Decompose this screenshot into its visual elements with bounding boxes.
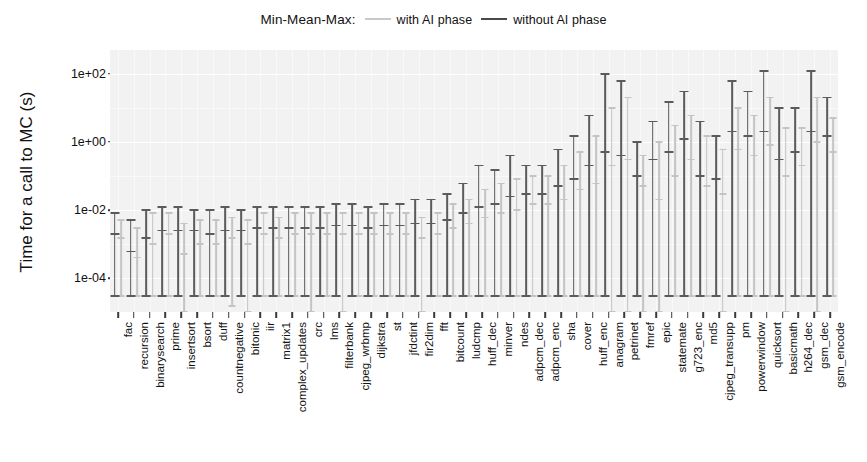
error-bar-cap-min bbox=[458, 295, 467, 297]
error-bar-mean bbox=[142, 237, 151, 239]
x-tick-mark bbox=[829, 312, 831, 318]
x-tick-label: fft bbox=[438, 322, 450, 331]
error-bar-mean bbox=[110, 233, 119, 235]
x-tick-label: bsort bbox=[201, 322, 213, 348]
error-bar-cap-min bbox=[585, 295, 594, 297]
error-bar-cap-max bbox=[379, 203, 388, 205]
x-axis-ticks bbox=[110, 312, 838, 320]
x-tick-label: minver bbox=[502, 322, 514, 357]
x-tick-mark bbox=[196, 312, 198, 318]
error-bar bbox=[297, 50, 313, 312]
error-bar-mean bbox=[632, 175, 641, 177]
error-bar-cap-max bbox=[569, 135, 578, 137]
error-bar bbox=[170, 50, 186, 312]
error-bar bbox=[392, 50, 408, 312]
error-bar-cap-max bbox=[791, 107, 800, 109]
y-tick-label: 1e-04 bbox=[74, 271, 106, 285]
error-bar-stem bbox=[604, 74, 606, 296]
error-bar-cap-max bbox=[284, 206, 293, 208]
error-bar bbox=[138, 50, 154, 312]
x-tick-label: filterbank bbox=[343, 322, 355, 369]
x-tick-mark bbox=[544, 312, 546, 318]
error-bar-cap-min bbox=[553, 295, 562, 297]
x-tick-mark bbox=[434, 312, 436, 318]
error-bar-stem bbox=[589, 115, 591, 295]
error-bar-stem bbox=[415, 200, 417, 296]
x-tick-label: huff_dec bbox=[486, 322, 498, 366]
error-bar-cap-min bbox=[759, 295, 768, 297]
error-bar bbox=[629, 50, 645, 312]
error-bar-cap-max bbox=[205, 209, 214, 211]
error-bar-cap-min bbox=[743, 295, 752, 297]
error-bar-mean bbox=[348, 225, 357, 227]
x-tick-label: h264_dec bbox=[802, 322, 814, 373]
error-bar-cap-min bbox=[474, 295, 483, 297]
error-bar bbox=[566, 50, 582, 312]
x-tick-mark bbox=[212, 312, 214, 318]
error-bar-cap-max bbox=[221, 206, 230, 208]
error-bar-mean bbox=[601, 151, 610, 153]
error-bar-cap-max bbox=[490, 169, 499, 171]
x-tick-mark bbox=[180, 312, 182, 318]
error-bar bbox=[312, 50, 328, 312]
error-bar-cap-min bbox=[822, 295, 831, 297]
error-bar-stem bbox=[320, 207, 322, 296]
error-bar bbox=[676, 50, 692, 312]
error-bar-stem bbox=[351, 204, 353, 296]
error-bar-cap-max bbox=[522, 165, 531, 167]
legend-label-with-ai: with AI phase bbox=[397, 13, 473, 27]
error-bar-cap-min bbox=[189, 295, 198, 297]
error-bar-stem bbox=[826, 98, 828, 296]
error-bar-mean bbox=[332, 225, 341, 227]
error-bar-cap-max bbox=[664, 101, 673, 103]
x-tick-label: sha bbox=[565, 322, 577, 341]
error-bar-cap-max bbox=[585, 115, 594, 117]
x-tick-label: st bbox=[391, 322, 403, 331]
error-bar-cap-max bbox=[743, 91, 752, 93]
x-tick-label: anagram bbox=[613, 322, 625, 367]
x-tick-label: insertsort bbox=[185, 322, 197, 369]
error-bar-mean bbox=[174, 230, 183, 232]
error-bar-mean bbox=[268, 227, 277, 229]
x-tick-label: huff_enc bbox=[597, 322, 609, 366]
error-bar-cap-max bbox=[759, 70, 768, 72]
error-bar bbox=[455, 50, 471, 312]
x-tick-mark bbox=[481, 312, 483, 318]
error-bar-stem bbox=[747, 92, 749, 296]
error-bar bbox=[708, 50, 724, 312]
y-axis-ticks: 1e+021e+001e-021e-04 bbox=[60, 50, 106, 312]
error-bar bbox=[186, 50, 202, 312]
error-bar-cap-max bbox=[110, 212, 119, 214]
x-tick-mark bbox=[386, 312, 388, 318]
error-bar bbox=[581, 50, 597, 312]
error-bar-stem bbox=[399, 204, 401, 296]
error-bar-mean bbox=[300, 227, 309, 229]
error-bar bbox=[265, 50, 281, 312]
error-bar bbox=[803, 50, 819, 312]
x-tick-mark bbox=[750, 312, 752, 318]
error-bar-cap-min bbox=[300, 295, 309, 297]
error-bar-cap-max bbox=[332, 203, 341, 205]
error-bar bbox=[233, 50, 249, 312]
error-bar-cap-max bbox=[807, 70, 816, 72]
x-tick-label: fir2dim bbox=[423, 322, 435, 357]
error-bar-stem bbox=[478, 166, 480, 296]
x-axis-labels: facrecursionbinarysearchprimeinsertsortb… bbox=[110, 322, 838, 458]
error-bar bbox=[328, 50, 344, 312]
error-bar-cap-min bbox=[395, 295, 404, 297]
error-bar-cap-max bbox=[348, 203, 357, 205]
error-bar-stem bbox=[225, 207, 227, 296]
error-bar-stem bbox=[256, 207, 258, 296]
error-bar-cap-min bbox=[506, 295, 515, 297]
error-bar-cap-max bbox=[696, 121, 705, 123]
x-tick-label: adpcm_dec bbox=[533, 322, 545, 381]
x-tick-mark bbox=[639, 312, 641, 318]
error-bar-stem bbox=[810, 71, 812, 296]
plot-panel bbox=[110, 50, 838, 312]
x-tick-mark bbox=[734, 312, 736, 318]
x-tick-mark bbox=[813, 312, 815, 318]
error-bar bbox=[819, 50, 835, 312]
x-tick-label: fac bbox=[122, 322, 134, 337]
error-bar-cap-min bbox=[221, 295, 230, 297]
error-bar-stem bbox=[430, 200, 432, 296]
